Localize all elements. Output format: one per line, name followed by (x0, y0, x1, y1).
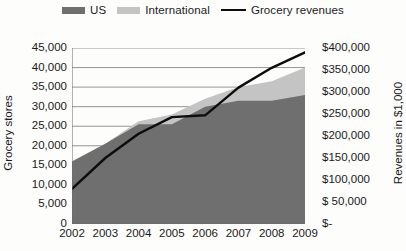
legend-label-us: US (90, 4, 106, 16)
y-axis-left-ticks: 05,00010,00015,00020,00025,00030,00035,0… (12, 0, 72, 251)
y-tick-right: $ 50,000 (322, 196, 367, 208)
y-tick-left: 45,000 (32, 42, 67, 54)
y-tick-right: $300,000 (322, 86, 370, 98)
x-tick-label: 2007 (226, 228, 252, 240)
y-tick-left: 15,000 (32, 160, 67, 172)
y-tick-left: 40,000 (32, 62, 67, 74)
y-tick-right: $- (322, 218, 332, 230)
y-tick-right: $250,000 (322, 108, 370, 120)
legend-label-international: International (145, 4, 210, 16)
plot-area (72, 48, 305, 224)
x-tick-label: 2002 (59, 228, 85, 240)
x-tick-label: 2005 (159, 228, 185, 240)
y-tick-right: $200,000 (322, 130, 370, 142)
x-tick-label: 2003 (92, 228, 118, 240)
y-axis-right-title-text: Revenues in $1,000 (392, 82, 404, 184)
plot-svg (72, 48, 305, 224)
y-axis-right-title: Revenues in $1,000 (390, 40, 406, 226)
y-tick-left: 20,000 (32, 140, 67, 152)
legend-swatch-international (117, 7, 140, 14)
x-tick-label: 2006 (192, 228, 218, 240)
y-tick-right: $400,000 (322, 42, 370, 54)
y-tick-right: $350,000 (322, 64, 370, 76)
y-tick-right: $100,000 (322, 174, 370, 186)
x-tick-label: 2008 (259, 228, 285, 240)
y-axis-right-ticks: $-$ 50,000$100,000$150,000$200,000$250,0… (318, 0, 388, 251)
y-tick-left: 5,000 (38, 199, 67, 211)
x-tick-label: 2004 (126, 228, 152, 240)
y-tick-left: 10,000 (32, 179, 67, 191)
x-axis-labels: 20022003200420052006200720082009 (72, 228, 305, 248)
y-tick-right: $150,000 (322, 152, 370, 164)
legend-entry-international: International (117, 4, 210, 16)
legend-swatch-grocery-revenues (221, 9, 246, 11)
y-tick-left: 25,000 (32, 120, 67, 132)
y-tick-left: 35,000 (32, 81, 67, 93)
grocery-stores-revenues-chart: US International Grocery revenues Grocer… (0, 0, 406, 251)
x-tick-label: 2009 (292, 228, 318, 240)
y-tick-left: 30,000 (32, 101, 67, 113)
